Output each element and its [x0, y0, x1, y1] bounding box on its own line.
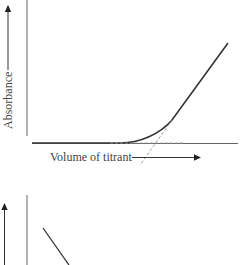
top-chart: Absorbance Volume of titrant	[1, 0, 238, 165]
titration-diagram: Absorbance Volume of titrant	[0, 0, 243, 265]
decreasing-line	[43, 228, 69, 265]
titration-curve	[32, 43, 228, 143]
x-axis-label: Volume of titrant	[50, 150, 132, 164]
bottom-chart	[5, 195, 70, 265]
extrapolation-line	[140, 120, 172, 165]
y-axis-label: Absorbance	[1, 72, 15, 129]
